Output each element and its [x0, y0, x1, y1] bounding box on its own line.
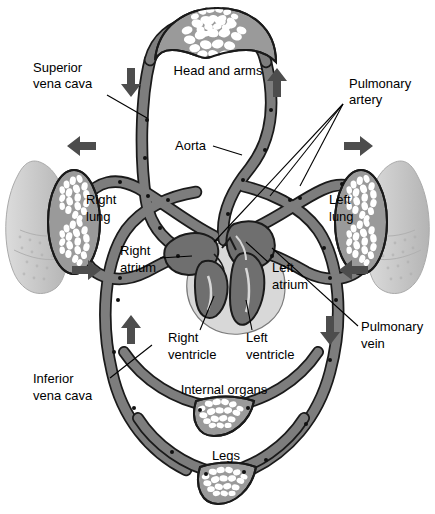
label-internal-organs: Internal organs	[181, 382, 268, 397]
label-left-ventricle-line2: ventricle	[246, 347, 294, 362]
label-pulmonary-artery-line1: Pulmonary	[349, 76, 412, 91]
label-superior-vena-cava-line1: Superior	[33, 60, 83, 75]
label-superior-vena-cava-line2: vena cava	[33, 76, 93, 91]
label-pulmonary-vein-line2: vein	[361, 336, 385, 351]
label-aorta: Aorta	[175, 138, 207, 153]
label-right-ventricle-line2: ventricle	[168, 347, 216, 362]
label-left-ventricle-line1: Left	[246, 330, 268, 345]
label-right-lung-line1: Right	[86, 192, 117, 207]
label-right-ventricle-line1: Right	[168, 330, 199, 345]
label-right-atrium-line1: Right	[120, 243, 151, 258]
diagram-canvas: Head and arms Superior vena cava Pulmona…	[0, 0, 435, 514]
circulatory-system-diagram: Head and arms Superior vena cava Pulmona…	[0, 0, 435, 514]
label-inferior-vena-cava-line1: Inferior	[33, 371, 74, 386]
label-legs: Legs	[212, 448, 241, 463]
label-left-lung-line2: lung	[329, 209, 354, 224]
label-pulmonary-vein-line1: Pulmonary	[361, 319, 424, 334]
label-right-lung-line2: lung	[86, 209, 111, 224]
label-left-atrium-line1: Left	[272, 260, 294, 275]
label-right-atrium-line2: atrium	[120, 260, 156, 275]
label-pulmonary-artery-line2: artery	[349, 92, 383, 107]
label-left-lung-line1: Left	[329, 192, 351, 207]
label-left-atrium-line2: atrium	[272, 277, 308, 292]
label-inferior-vena-cava-line2: vena cava	[33, 388, 93, 403]
label-head-and-arms: Head and arms	[174, 63, 263, 78]
